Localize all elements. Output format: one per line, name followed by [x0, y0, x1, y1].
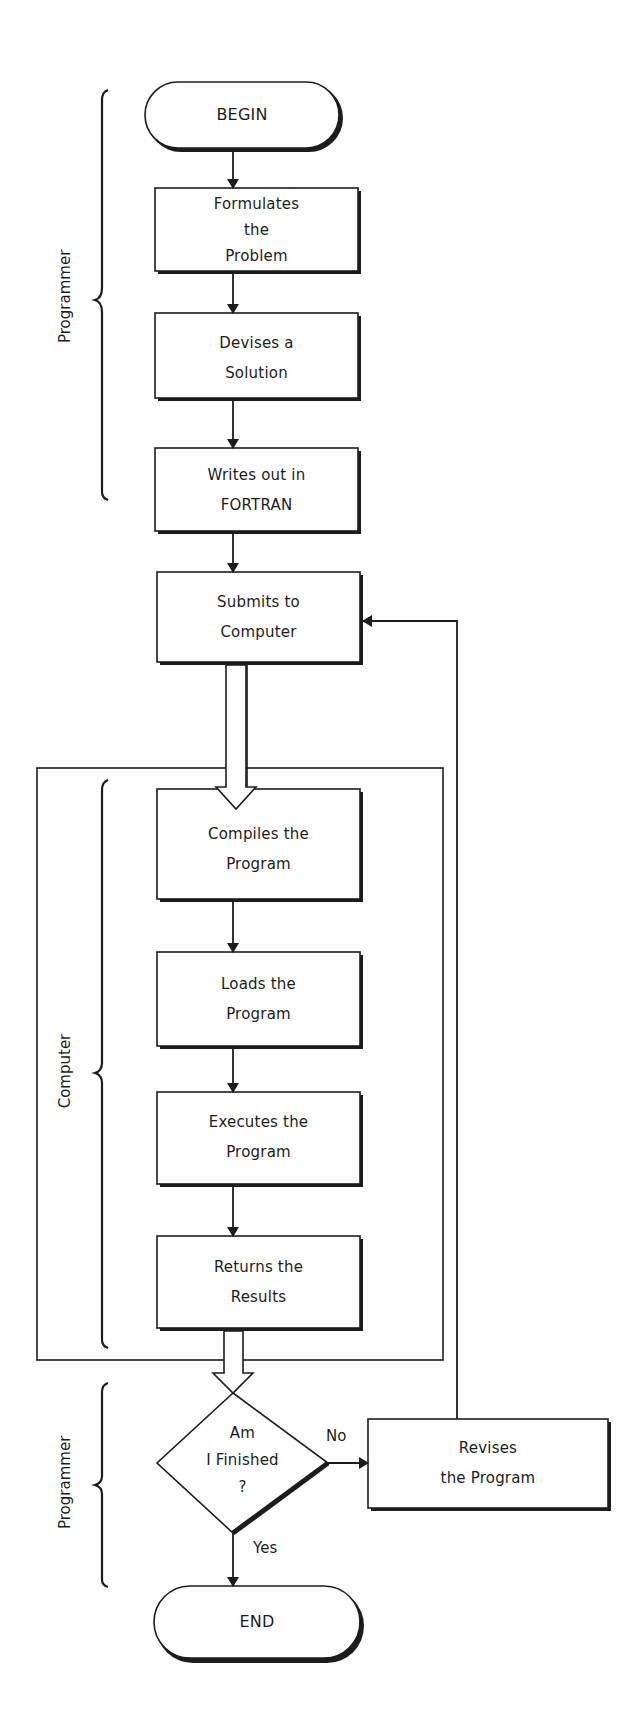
begin-text: BEGIN [145, 102, 339, 128]
hollow-arrow-return-to-decision [213, 1331, 253, 1393]
devise-line-1: Devises a [155, 328, 358, 358]
decision-line-1: Am [157, 1420, 328, 1447]
edge-label-yes: Yes [253, 1539, 277, 1557]
decision-label: Am I Finished ? [157, 1420, 328, 1501]
load-line-2: Program [157, 999, 360, 1029]
compile-label: Compiles the Program [157, 819, 360, 879]
execute-line-2: Program [157, 1137, 360, 1167]
edge-label-no: No [326, 1427, 346, 1445]
return-line-1: Returns the [157, 1252, 360, 1282]
revise-line-1: Revises [368, 1433, 608, 1463]
programmer-top-brace [95, 90, 108, 500]
compile-line-1: Compiles the [157, 819, 360, 849]
programmer-bottom-brace [95, 1383, 108, 1587]
return-line-2: Results [157, 1282, 360, 1312]
group-label-programmer-top: Programmer [56, 253, 74, 343]
begin-label: BEGIN [145, 102, 339, 128]
submit-line-2: Computer [157, 617, 360, 647]
load-line-1: Loads the [157, 969, 360, 999]
group-label-computer: Computer [56, 1031, 74, 1111]
decision-line-3: ? [157, 1474, 328, 1501]
compile-line-2: Program [157, 849, 360, 879]
end-text: END [154, 1609, 360, 1635]
submit-label: Submits to Computer [157, 587, 360, 647]
computer-brace [95, 780, 108, 1348]
execute-line-1: Executes the [157, 1107, 360, 1137]
end-label: END [154, 1609, 360, 1635]
hollow-arrow-submit-to-compile [216, 665, 256, 809]
devise-line-2: Solution [155, 358, 358, 388]
formulate-line-1: Formulates [155, 191, 358, 217]
group-label-programmer-bottom: Programmer [56, 1439, 74, 1529]
return-label: Returns the Results [157, 1252, 360, 1312]
write-line-2: FORTRAN [155, 490, 358, 520]
revise-label: Revises the Program [368, 1433, 608, 1493]
formulate-label: Formulates the Problem [155, 191, 358, 269]
write-label: Writes out in FORTRAN [155, 460, 358, 520]
formulate-line-2: the [155, 217, 358, 243]
execute-label: Executes the Program [157, 1107, 360, 1167]
load-label: Loads the Program [157, 969, 360, 1029]
formulate-line-3: Problem [155, 243, 358, 269]
decision-line-2: I Finished [157, 1447, 328, 1474]
devise-label: Devises a Solution [155, 328, 358, 388]
submit-line-1: Submits to [157, 587, 360, 617]
write-line-1: Writes out in [155, 460, 358, 490]
revise-line-2: the Program [368, 1463, 608, 1493]
